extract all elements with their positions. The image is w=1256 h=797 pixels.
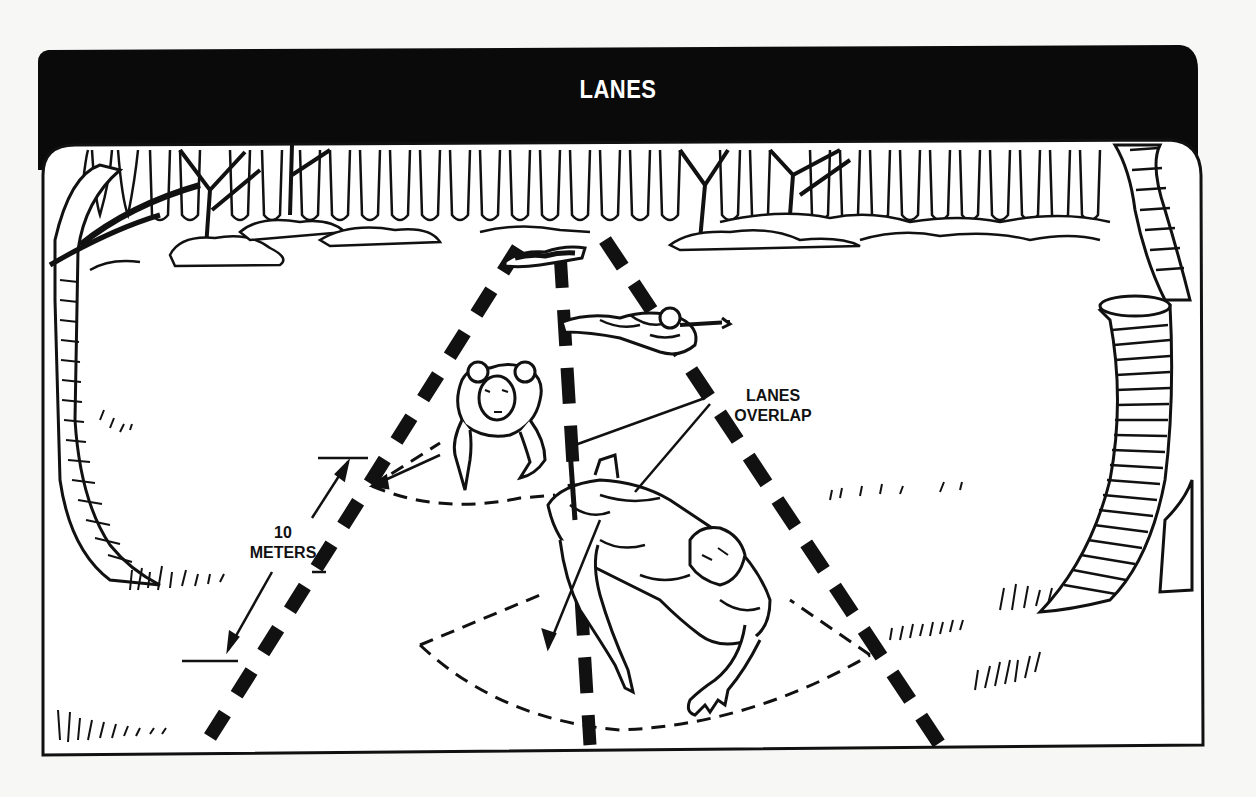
lanes-figure: LANES LANES OVERLAP 10 METERS	[0, 0, 1256, 797]
distance-value: 10	[238, 523, 328, 543]
distance-unit: METERS	[238, 543, 328, 563]
lanes-overlap-line1: LANES	[718, 386, 828, 406]
lanes-overlap-line2: OVERLAP	[718, 406, 828, 426]
figure-title: LANES	[38, 56, 1198, 125]
lanes-overlap-label: LANES OVERLAP	[718, 386, 828, 426]
distance-label: 10 METERS	[238, 523, 328, 563]
